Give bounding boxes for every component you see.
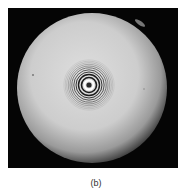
interference-photo: [8, 8, 178, 168]
figure-label: (b): [0, 178, 192, 188]
glint: [134, 18, 146, 28]
center-spot: [86, 82, 91, 87]
figure: (b): [0, 0, 192, 194]
interference-rings-image: [8, 8, 178, 168]
